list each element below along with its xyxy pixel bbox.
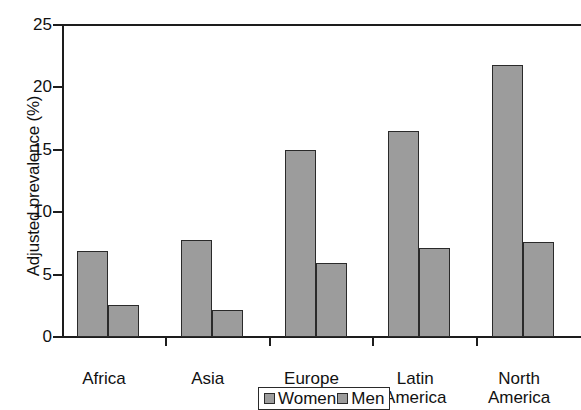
y-axis-tick bbox=[53, 211, 62, 213]
x-axis-tick bbox=[269, 337, 271, 346]
bar-men-asia bbox=[212, 310, 243, 337]
y-axis-tick-label: 25 bbox=[10, 16, 52, 33]
plot-area: 0510152025AfricaAsiaEuropeLatinAmericaNo… bbox=[62, 25, 581, 337]
bar-men-latin-america bbox=[419, 248, 450, 337]
y-axis-tick-label: 10 bbox=[10, 203, 52, 220]
bar-women-africa bbox=[77, 251, 108, 337]
bar-men-africa bbox=[108, 305, 139, 337]
y-axis-tick bbox=[53, 274, 62, 276]
y-axis-tick bbox=[53, 86, 62, 88]
x-axis-category-label: Africa bbox=[52, 369, 156, 388]
y-axis-tick-label: 20 bbox=[10, 78, 52, 95]
y-axis-tick-label: 15 bbox=[10, 141, 52, 158]
x-axis-label-line: Latin bbox=[363, 369, 467, 388]
bar-women-europe bbox=[285, 150, 316, 337]
legend-swatch-men-icon bbox=[337, 393, 348, 404]
y-axis-tick bbox=[53, 149, 62, 151]
x-axis-label-line: America bbox=[467, 388, 571, 407]
bar-men-europe bbox=[316, 263, 347, 337]
x-axis-tick bbox=[372, 337, 374, 346]
y-axis-tick bbox=[53, 24, 62, 26]
x-axis-category-label: Asia bbox=[156, 369, 260, 388]
x-axis-tick bbox=[165, 337, 167, 346]
legend-label-women: Women bbox=[278, 390, 336, 407]
bar-women-asia bbox=[181, 240, 212, 337]
bar-women-north-america bbox=[492, 65, 523, 337]
legend-label-men: Men bbox=[351, 390, 384, 407]
y-axis-tick-label: 5 bbox=[10, 266, 52, 283]
bar-women-latin-america bbox=[388, 131, 419, 337]
bar-men-north-america bbox=[523, 242, 554, 337]
legend-swatch-women-icon bbox=[264, 393, 275, 404]
x-axis-tick bbox=[476, 337, 478, 346]
y-axis-tick bbox=[53, 336, 62, 338]
x-axis-category-label: NorthAmerica bbox=[467, 369, 571, 407]
legend-item-men: Men bbox=[337, 390, 384, 407]
x-axis-label-line: Africa bbox=[52, 369, 156, 388]
chart-figure: Adjusted prevalence (%) 0510152025Africa… bbox=[0, 0, 581, 410]
x-axis-category-label: Europe bbox=[260, 369, 364, 388]
x-axis-label-line: North bbox=[467, 369, 571, 388]
y-axis-tick-label: 0 bbox=[10, 328, 52, 345]
chart-legend: Women Men bbox=[258, 387, 390, 410]
x-axis-label-line: Asia bbox=[156, 369, 260, 388]
x-axis-label-line: Europe bbox=[260, 369, 364, 388]
legend-item-women: Women bbox=[264, 390, 336, 407]
